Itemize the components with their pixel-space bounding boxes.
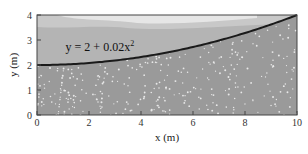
ground-speckle	[156, 100, 157, 101]
ground-speckle	[78, 67, 80, 69]
ground-speckle	[51, 101, 53, 103]
ground-speckle	[100, 112, 101, 113]
ground-speckle	[58, 111, 59, 112]
ground-speckle	[286, 56, 287, 57]
ground-speckle	[81, 89, 83, 91]
ground-speckle	[237, 86, 238, 87]
ground-speckle	[290, 97, 291, 98]
ground-speckle	[283, 85, 285, 87]
ground-speckle	[179, 56, 181, 58]
ground-speckle	[174, 94, 175, 95]
ground-speckle	[178, 70, 180, 72]
ground-speckle	[66, 98, 67, 99]
x-tick-label: 10	[292, 117, 302, 128]
ground-speckle	[59, 99, 61, 101]
ground-speckle	[58, 106, 60, 108]
ground-speckle	[165, 87, 167, 89]
ground-speckle	[264, 95, 265, 96]
ground-speckle	[101, 93, 103, 95]
ground-speckle	[206, 105, 207, 106]
ground-speckle	[244, 103, 245, 104]
ground-speckle	[240, 92, 242, 94]
ground-speckle	[99, 106, 100, 107]
ground-speckle	[223, 66, 224, 67]
ground-speckle	[80, 73, 82, 75]
ground-speckle	[278, 55, 280, 57]
ground-speckle	[230, 64, 232, 66]
ground-speckle	[295, 30, 297, 32]
ground-speckle	[100, 91, 102, 93]
ground-speckle	[208, 62, 209, 63]
ground-speckle	[158, 96, 160, 98]
ground-speckle	[160, 70, 161, 71]
ground-speckle	[183, 68, 185, 70]
y-axis-label: y (m)	[7, 53, 20, 77]
ground-speckle	[232, 112, 233, 113]
ground-speckle	[272, 60, 274, 62]
ground-speckle	[211, 88, 213, 90]
ground-speckle	[216, 104, 218, 106]
ground-speckle	[235, 87, 236, 88]
ground-speckle	[165, 88, 166, 89]
ground-speckle	[271, 64, 273, 66]
ground-speckle	[202, 68, 203, 69]
equation-annotation: y = 2 + 0.02x2	[66, 39, 135, 54]
ground-speckle	[145, 62, 147, 64]
ground-speckle	[252, 43, 253, 44]
ground-speckle	[49, 81, 50, 82]
x-tick-label: 4	[139, 117, 144, 128]
ground-speckle	[225, 90, 226, 91]
ground-speckle	[117, 101, 119, 103]
ground-speckle	[207, 77, 208, 78]
ground-speckle	[229, 79, 231, 81]
ground-speckle	[179, 93, 180, 94]
ground-speckle	[38, 93, 40, 95]
ground-speckle	[139, 64, 141, 66]
ground-speckle	[169, 109, 171, 111]
ground-speckle	[231, 53, 233, 55]
ground-speckle	[153, 109, 154, 110]
ground-speckle	[181, 72, 183, 74]
ground-speckle	[139, 66, 140, 67]
ground-speckle	[67, 101, 69, 103]
ground-speckle	[99, 76, 101, 78]
ground-speckle	[127, 103, 128, 104]
ground-speckle	[215, 71, 216, 72]
ground-speckle	[204, 48, 205, 49]
ground-speckle	[196, 77, 197, 78]
ground-speckle	[43, 98, 44, 99]
ground-speckle	[112, 81, 114, 83]
y-tick-label: 2	[27, 60, 32, 71]
ground-speckle	[104, 71, 106, 73]
ground-speckle	[60, 92, 62, 94]
ground-speckle	[49, 67, 51, 69]
ground-speckle	[144, 85, 146, 87]
ground-speckle	[150, 92, 152, 94]
ground-speckle	[144, 92, 146, 94]
ground-speckle	[257, 112, 258, 113]
ground-speckle	[182, 82, 183, 83]
ground-speckle	[152, 61, 154, 63]
ground-speckle	[97, 75, 98, 76]
ground-speckle	[74, 107, 75, 108]
ground-speckle	[60, 89, 61, 90]
ground-speckle	[71, 73, 73, 75]
ground-speckle	[200, 98, 202, 100]
ground-speckle	[187, 71, 189, 73]
ground-speckle	[167, 75, 168, 76]
ground-speckle	[74, 84, 76, 86]
ground-speckle	[50, 96, 52, 98]
ground-speckle	[208, 79, 209, 80]
ground-speckle	[163, 110, 164, 111]
ground-speckle	[213, 94, 215, 96]
ground-speckle	[243, 86, 245, 88]
ground-speckle	[287, 91, 289, 93]
ground-speckle	[195, 88, 196, 89]
ground-speckle	[67, 69, 69, 71]
ground-speckle	[182, 95, 184, 97]
ground-speckle	[233, 109, 235, 111]
ground-speckle	[234, 98, 235, 99]
ground-speckle	[80, 100, 82, 102]
ground-speckle	[282, 38, 284, 40]
ground-speckle	[67, 91, 69, 93]
